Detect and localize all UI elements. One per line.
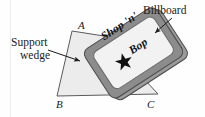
billboard-leader [155, 18, 172, 33]
figure-billboard-wedge: Shop 'n' Bop Billboard Support wedge A B… [0, 0, 205, 117]
callout-support-line2: wedge [20, 50, 50, 62]
callout-billboard: Billboard [143, 5, 186, 17]
vertex-label-c: C [147, 99, 154, 110]
vertex-label-a: A [78, 20, 85, 31]
support-wedge-leader [48, 50, 80, 61]
vertex-label-b: B [56, 99, 63, 110]
callout-support-line1: Support [11, 37, 47, 49]
